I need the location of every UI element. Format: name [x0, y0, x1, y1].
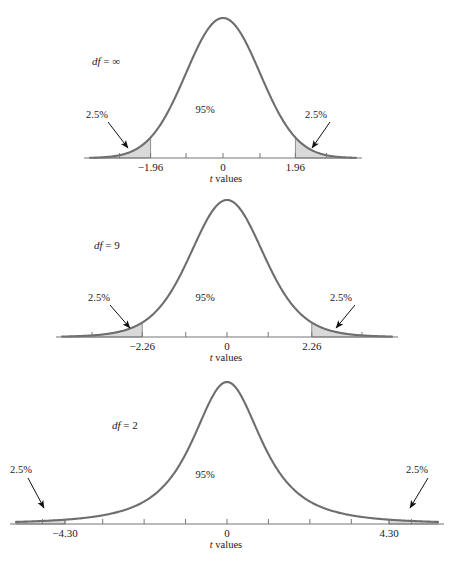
df-label: df = ∞	[92, 56, 120, 67]
central-area-percent-label: 95%	[195, 470, 214, 481]
panel-df-infinity: df = ∞2.5%2.5%95%−1.9601.96t values	[0, 0, 452, 574]
left-tail-arrow	[28, 478, 44, 508]
right-tail-arrow	[410, 478, 428, 508]
x-axis-title: t values	[210, 353, 242, 364]
left-tail-shading	[62, 323, 142, 337]
right-tail-arrow	[336, 305, 355, 328]
left-tail-percent-label: 2.5%	[88, 293, 110, 304]
distribution-curve	[62, 200, 392, 337]
panel-df-2: df = 22.5%2.5%95%−4.3004.30t values	[0, 0, 452, 574]
x-axis-title: t values	[210, 174, 242, 185]
df-label: df = 2	[112, 420, 138, 431]
x-tick-label: 0	[224, 341, 230, 352]
right-tail-shading	[312, 323, 392, 337]
central-area-percent-label: 95%	[195, 105, 214, 116]
left-tail-arrow	[110, 305, 130, 328]
right-tail-shading	[295, 137, 356, 158]
left-tail-percent-label: 2.5%	[86, 110, 108, 121]
x-tick-label: −4.30	[52, 528, 77, 539]
x-tick-label: −1.96	[138, 162, 163, 173]
x-tick-label: 0	[220, 162, 226, 173]
x-axis-title: t values	[210, 540, 242, 551]
right-tail-arrow	[312, 122, 330, 148]
right-tail-percent-label: 2.5%	[330, 293, 352, 304]
central-area-percent-label: 95%	[195, 293, 214, 304]
right-tail-percent-label: 2.5%	[305, 110, 327, 121]
axis-ticks	[120, 153, 327, 158]
axis-ticks	[42, 519, 411, 524]
left-tail-shading	[16, 520, 65, 524]
axis-ticks	[92, 332, 362, 337]
left-tail-percent-label: 2.5%	[10, 465, 32, 476]
x-tick-label: 1.96	[286, 162, 305, 173]
right-tail-percent-label: 2.5%	[406, 465, 428, 476]
x-tick-label: 2.26	[302, 341, 321, 352]
left-tail-arrow	[108, 122, 128, 148]
distribution-curve	[90, 18, 356, 158]
x-tick-label: −2.26	[130, 341, 155, 352]
panel-df-9: df = 92.5%2.5%95%−2.2602.26t values	[0, 0, 452, 574]
right-tail-shading	[389, 520, 438, 524]
left-tail-shading	[90, 137, 151, 158]
df-label: df = 9	[94, 240, 120, 251]
x-tick-label: 4.30	[379, 528, 398, 539]
x-tick-label: 0	[224, 528, 230, 539]
distribution-curve	[16, 382, 438, 522]
